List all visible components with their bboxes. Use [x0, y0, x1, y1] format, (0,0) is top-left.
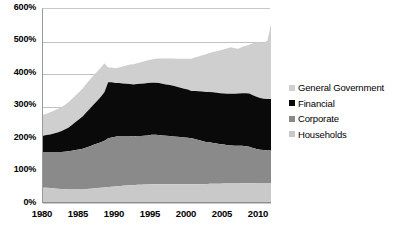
legend-label-corporate: Corporate: [298, 113, 339, 124]
legend-swatch-corporate: [289, 116, 295, 122]
legend-item-households: Households: [289, 128, 401, 141]
y-axis-tick-0: 0%: [0, 198, 36, 207]
y-axis-tick-100: 100%: [0, 165, 36, 174]
legend-swatch-general-government: [289, 85, 295, 91]
x-axis-tick-2000: 2000: [169, 208, 203, 219]
y-axis-tick-600: 600%: [0, 3, 36, 12]
y-axis-tick-400: 400%: [0, 68, 36, 77]
y-axis-tick-300: 300%: [0, 100, 36, 109]
plot-area: [42, 8, 270, 203]
legend-swatch-households: [289, 131, 295, 137]
chart-legend: General Government Financial Corporate H…: [289, 81, 401, 143]
x-axis-tick-2010: 2010: [241, 208, 275, 219]
legend-item-financial: Financial: [289, 97, 401, 110]
y-axis-labels: 600% 500% 400% 300% 200% 100% 0%: [0, 0, 38, 233]
legend-item-general-government: General Government: [289, 81, 401, 94]
x-axis-tick-2005: 2005: [205, 208, 239, 219]
area-series-svg: [43, 9, 271, 204]
legend-swatch-financial: [289, 100, 295, 106]
legend-label-general-government: General Government: [298, 82, 384, 93]
x-axis-tick-1990: 1990: [97, 208, 131, 219]
y-axis-tick-200: 200%: [0, 133, 36, 142]
x-axis-tick-1980: 1980: [25, 208, 59, 219]
legend-label-financial: Financial: [298, 98, 335, 109]
y-axis-tick-500: 500%: [0, 35, 36, 44]
x-axis-tick-1985: 1985: [61, 208, 95, 219]
legend-item-corporate: Corporate: [289, 112, 401, 125]
x-axis-tick-1995: 1995: [133, 208, 167, 219]
stacked-area-chart: 600% 500% 400% 300% 200% 100% 0%: [0, 0, 403, 233]
x-axis-line: [42, 202, 271, 203]
legend-label-households: Households: [298, 129, 347, 140]
